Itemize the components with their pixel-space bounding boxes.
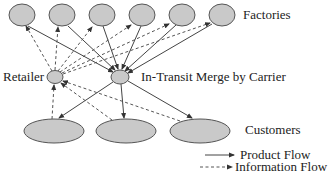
- factory-node-2: [49, 4, 75, 26]
- factory-node-3: [89, 4, 115, 26]
- factory-node-4: [129, 4, 155, 26]
- legend: Product Flow Information Flow: [200, 147, 328, 174]
- retailer-label: Retailer: [3, 69, 45, 84]
- supply-chain-diagram: Factories Retailer In-Transit Merge by C…: [0, 0, 335, 177]
- merge-node: [111, 70, 129, 84]
- customer-node-2: [96, 119, 156, 143]
- customers-label: Customers: [245, 122, 301, 137]
- information-flow-legend-label: Information Flow: [235, 159, 328, 174]
- customer-node-3: [170, 119, 230, 143]
- factory-node-5: [169, 4, 195, 26]
- factory-node-1: [9, 4, 35, 26]
- factory-node-6: [209, 4, 235, 26]
- merge-label: In-Transit Merge by Carrier: [141, 69, 286, 84]
- customer-node-1: [24, 119, 84, 143]
- retailer-node: [47, 71, 63, 84]
- factory-nodes: [9, 4, 235, 26]
- customer-nodes: [24, 119, 230, 143]
- factories-label: Factories: [243, 7, 291, 22]
